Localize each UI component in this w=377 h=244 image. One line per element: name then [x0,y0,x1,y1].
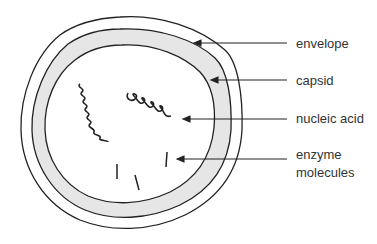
label-envelope: envelope [296,35,349,52]
virus-diagram: envelope capsid nucleic acid enzyme mole… [0,0,377,244]
label-nucleic-acid: nucleic acid [296,110,364,127]
label-enzyme: enzyme [296,146,342,163]
label-capsid: capsid [296,72,334,89]
enzyme-molecule-3 [166,152,167,167]
label-molecules: molecules [296,164,355,181]
capsid-inner [45,45,215,203]
